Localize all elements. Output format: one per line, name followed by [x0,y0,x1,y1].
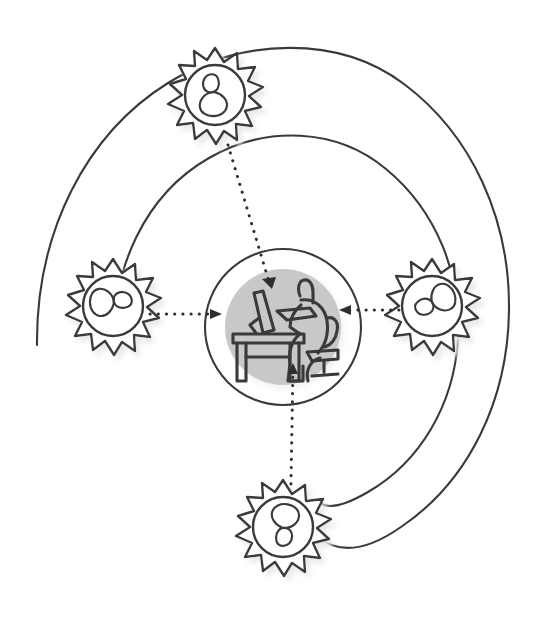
center-hub [205,249,361,405]
spiral-collaboration-diagram [0,0,542,619]
diagram-canvas: Hand-drawn diagram: a person working at … [0,0,542,619]
